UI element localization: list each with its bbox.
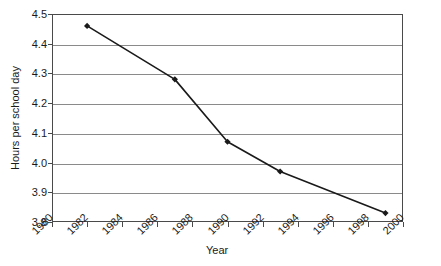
y-tick-mark (48, 163, 52, 164)
gridline (53, 74, 402, 75)
y-tick-mark (48, 14, 52, 15)
x-tick-mark (157, 222, 158, 227)
y-tick-mark (48, 103, 52, 104)
x-tick-mark (368, 222, 369, 227)
x-tick-mark (122, 222, 123, 227)
gridline (53, 193, 402, 194)
y-tick-label: 4.2 (1, 98, 47, 109)
y-tick-mark (48, 133, 52, 134)
x-axis-label: Year (206, 244, 228, 256)
x-tick-mark (298, 222, 299, 227)
x-tick-mark (52, 222, 53, 227)
gridline (53, 104, 402, 105)
x-tick-mark (192, 222, 193, 227)
gridline (53, 45, 402, 46)
plot-area (52, 14, 403, 222)
x-tick-mark (403, 222, 404, 227)
chart-page: 3.83.94.04.14.24.34.44.5 Hours per schoo… (0, 0, 441, 266)
y-tick-label: 4.5 (1, 9, 47, 20)
y-tick-label: 4.3 (1, 68, 47, 79)
gridline (53, 164, 402, 165)
y-axis-label: Hours per school day (9, 38, 21, 198)
y-tick-label: 4.1 (1, 127, 47, 138)
x-tick-mark (333, 222, 334, 227)
gridline (53, 134, 402, 135)
y-tick-label: 3.9 (1, 187, 47, 198)
y-tick-label: 4.0 (1, 157, 47, 168)
y-tick-mark (48, 73, 52, 74)
y-tick-label: 4.4 (1, 38, 47, 49)
y-tick-mark (48, 192, 52, 193)
x-tick-mark (87, 222, 88, 227)
y-tick-mark (48, 44, 52, 45)
